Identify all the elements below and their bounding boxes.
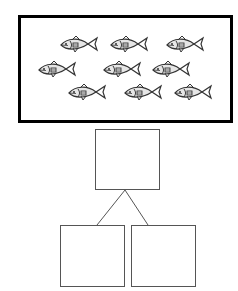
fish-icon xyxy=(109,35,149,53)
fish-icon xyxy=(165,35,205,53)
part-box-right[interactable] xyxy=(131,225,196,287)
fish-icon xyxy=(151,60,191,78)
fish-icon xyxy=(59,35,99,53)
part-box-left[interactable] xyxy=(60,225,125,287)
fish-icon xyxy=(123,83,163,101)
fish-icon xyxy=(67,83,107,101)
whole-box[interactable] xyxy=(95,129,160,190)
fish-icon xyxy=(173,83,213,101)
fish-icon xyxy=(37,60,77,78)
fish-icon xyxy=(102,60,142,78)
